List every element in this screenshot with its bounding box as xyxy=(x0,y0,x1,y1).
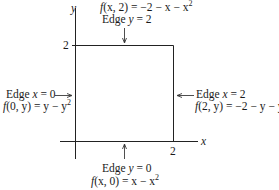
left-edge-title: Edge x = 0 xyxy=(6,88,56,100)
region-boundary xyxy=(76,46,174,142)
left-edge-function: f(0, y) = y − y2 xyxy=(3,100,71,112)
x-axis-label: x xyxy=(201,135,206,147)
right-edge-title: Edge x = 2 xyxy=(196,88,246,100)
arrow-left-icon xyxy=(177,94,194,98)
arrow-down-icon xyxy=(123,28,127,43)
y-axis-label: y xyxy=(71,2,76,14)
bottom-edge-title: Edge y = 0 xyxy=(102,162,152,174)
arrow-right-icon xyxy=(55,94,72,98)
x-tick-label: 2 xyxy=(170,145,176,157)
right-edge-function: f(2, y) = −2 − y − y2 xyxy=(195,100,279,112)
bottom-edge-function: f(x, 0) = x − x2 xyxy=(91,175,159,187)
top-edge-function: f(x, 2) = −2 − x − x2 xyxy=(100,1,193,13)
top-edge-title: Edge y = 2 xyxy=(102,13,152,25)
arrow-up-icon xyxy=(123,144,127,159)
y-tick-label: 2 xyxy=(63,39,69,51)
